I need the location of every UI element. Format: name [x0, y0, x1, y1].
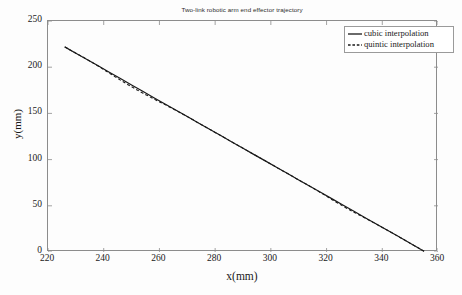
y-tick-label: 50: [33, 200, 43, 210]
x-tick-label: 260: [143, 254, 173, 264]
x-tick-label: 340: [366, 254, 396, 264]
legend: cubic interpolationquintic interpolation: [344, 26, 454, 53]
plot-area: [47, 20, 437, 251]
x-tick-label: 280: [199, 254, 229, 264]
series-paths: [65, 47, 424, 251]
x-tick-label: 360: [422, 254, 452, 264]
legend-line-sample-icon: [347, 41, 363, 49]
legend-item: cubic interpolation: [347, 28, 451, 39]
x-axis-tick-labels: 220240260280300320340360: [0, 254, 462, 268]
plot-svg: [48, 21, 438, 252]
legend-label: cubic interpolation: [364, 29, 429, 38]
series-line-cubic: [65, 47, 424, 251]
legend-line-sample-icon: [347, 30, 363, 38]
x-tick-label: 220: [32, 254, 62, 264]
x-tick-label: 320: [311, 254, 341, 264]
x-tick-label: 240: [88, 254, 118, 264]
page-title: Two-link robotic arm end effector trajec…: [47, 6, 437, 13]
y-tick-label: 250: [28, 15, 42, 25]
figure-canvas: Two-link robotic arm end effector trajec…: [0, 0, 462, 295]
y-tick-label: 200: [28, 61, 42, 71]
legend-label: quintic interpolation: [364, 40, 434, 49]
y-tick-label: 100: [28, 154, 42, 164]
x-tick-label: 300: [255, 254, 285, 264]
legend-item: quintic interpolation: [347, 39, 451, 50]
x-axis-title: x(mm): [47, 270, 437, 282]
y-tick-label: 150: [28, 107, 42, 117]
tick-marks: [48, 21, 438, 252]
y-axis-title: y(mm): [11, 89, 23, 159]
